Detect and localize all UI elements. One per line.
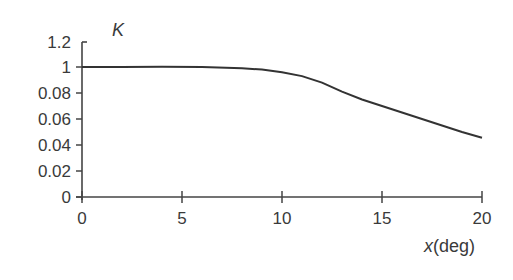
svg-text:1.2: 1.2 — [47, 33, 71, 52]
svg-text:5: 5 — [177, 209, 186, 228]
svg-text:0.08: 0.08 — [38, 84, 71, 103]
svg-text:0: 0 — [77, 209, 86, 228]
svg-text:0.02: 0.02 — [38, 162, 71, 181]
svg-text:1: 1 — [62, 58, 71, 77]
svg-text:15: 15 — [373, 209, 392, 228]
y-axis-label: K — [112, 20, 125, 40]
svg-text:0.04: 0.04 — [38, 136, 71, 155]
svg-text:0.06: 0.06 — [38, 110, 71, 129]
y-ticks: 1.210.080.060.040.020 — [38, 33, 82, 207]
svg-text:20: 20 — [473, 209, 492, 228]
chart: 1.210.080.060.040.020 05101520 K x(deg) — [0, 0, 513, 280]
k-curve — [82, 67, 482, 138]
svg-text:10: 10 — [273, 209, 292, 228]
x-axis-label: x(deg) — [423, 236, 475, 256]
svg-text:0: 0 — [62, 188, 71, 207]
